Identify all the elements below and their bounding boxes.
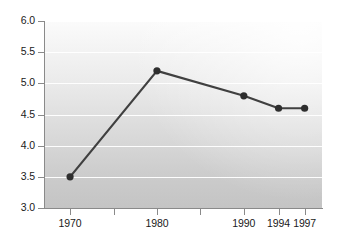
data-point-marker bbox=[153, 67, 160, 74]
series-markers bbox=[66, 67, 308, 180]
data-series-layer bbox=[0, 0, 339, 246]
line-chart: 3.03.54.04.55.05.56.0 197019801990199419… bbox=[0, 0, 339, 246]
series-line bbox=[70, 71, 305, 177]
data-point-marker bbox=[66, 173, 73, 180]
data-point-marker bbox=[240, 92, 247, 99]
data-point-marker bbox=[301, 105, 308, 112]
data-point-marker bbox=[275, 105, 282, 112]
